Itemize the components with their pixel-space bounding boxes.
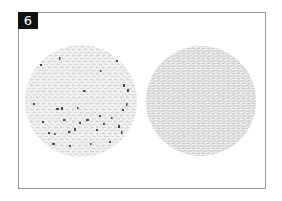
left-circle-image xyxy=(25,45,137,157)
right-circle-image xyxy=(145,45,257,157)
figure-panels xyxy=(0,0,282,201)
